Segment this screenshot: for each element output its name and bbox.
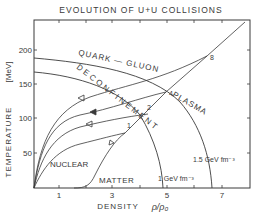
x-axis-symbol: ρ/ρ₀ bbox=[151, 202, 169, 212]
x-tick-7: 7 bbox=[220, 191, 225, 200]
x-tick-1: 1 bbox=[57, 191, 62, 200]
arrow-icon bbox=[90, 109, 96, 115]
lower-phase-boundary bbox=[34, 72, 163, 188]
y-axis-unit: [MeV] bbox=[4, 62, 13, 83]
x-tick-3: 3 bbox=[110, 191, 115, 200]
label-nuclear: NUCLEAR bbox=[50, 160, 88, 169]
y-tick-200: 200 bbox=[19, 46, 33, 55]
trajectory-label-1: 1 bbox=[127, 122, 131, 129]
y-tick-100: 100 bbox=[19, 114, 33, 123]
trajectory-label-8: 8 bbox=[210, 54, 214, 61]
y-tick-150: 150 bbox=[19, 80, 33, 89]
trajectory-label-4: 4 bbox=[169, 90, 173, 97]
phase-diagram: EVOLUTION OF U+U COLLISIONS 200 150 100 … bbox=[0, 0, 254, 219]
trajectory-label-2: 2 bbox=[147, 104, 151, 111]
chart-title: EVOLUTION OF U+U COLLISIONS bbox=[59, 5, 222, 15]
y-axis-label: TEMPERATURE bbox=[4, 107, 13, 178]
label-plasma: PLASMA bbox=[171, 90, 209, 117]
label-1-5-gev: 1.5 GeV fm⁻³ bbox=[193, 156, 235, 163]
label-matter: MATTER bbox=[99, 176, 134, 185]
x-tick-5: 5 bbox=[165, 191, 170, 200]
x-axis-label: DENSITY bbox=[97, 202, 139, 211]
label-1-gev: 1 GeV fm⁻³ bbox=[158, 175, 195, 182]
y-tick-50: 50 bbox=[23, 149, 32, 158]
